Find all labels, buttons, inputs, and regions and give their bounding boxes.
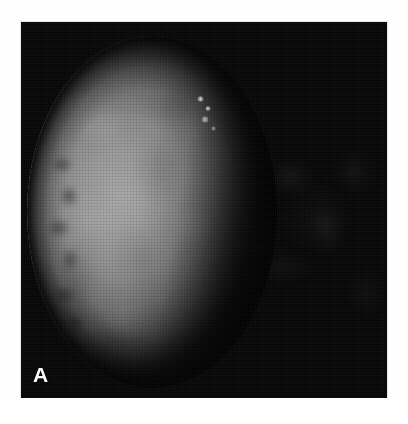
bright-spot-icon	[205, 106, 211, 111]
bright-spot-icon	[201, 116, 209, 123]
figure-panel: A	[0, 0, 408, 424]
planetary-disc	[27, 36, 279, 392]
disc-body	[27, 36, 277, 388]
paper-bottom-margin	[0, 398, 408, 424]
image-plate: A	[21, 22, 387, 398]
panel-label: A	[33, 364, 49, 385]
limb-darkening	[27, 36, 277, 388]
bright-spot-icon	[211, 126, 216, 131]
bright-spot-icon	[197, 96, 204, 102]
